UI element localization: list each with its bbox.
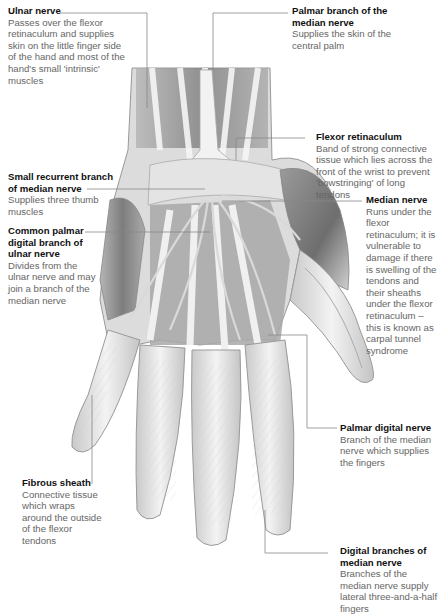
label-desc: Connective tissue which wraps around the…	[22, 489, 104, 547]
label-common-palmar-digital-ulnar: Common palmar digital branch of ulnar ne…	[8, 225, 100, 306]
middle-finger	[192, 350, 241, 546]
label-title: Palmar branch of the median nerve	[292, 5, 402, 28]
label-small-recurrent-branch: Small recurrent branch of median nerve S…	[8, 171, 120, 217]
fingers	[72, 330, 294, 546]
label-desc: Band of strong connective tissue which l…	[316, 143, 438, 201]
label-title: Common palmar digital branch of ulnar ne…	[8, 225, 100, 260]
label-title: Flexor retinaculum	[316, 131, 438, 143]
label-desc: Branches of the median nerve supply late…	[340, 568, 438, 614]
label-title: Fibrous sheath	[22, 477, 104, 489]
label-desc: Runs under the flexor retinaculum; it is…	[366, 206, 438, 357]
label-fibrous-sheath: Fibrous sheath Connective tissue which w…	[22, 477, 104, 547]
label-ulnar-nerve: Ulnar nerve Passes over the flexor retin…	[8, 5, 126, 86]
label-desc: Supplies the skin of the central palm	[292, 28, 402, 51]
label-title: Palmar digital nerve	[340, 422, 438, 434]
little-finger	[72, 330, 140, 452]
label-title: Digital branches of median nerve	[340, 545, 438, 568]
label-title: Small recurrent branch of median nerve	[8, 171, 120, 194]
label-desc: Passes over the flexor retinaculum and s…	[8, 17, 126, 87]
label-palmar-digital-nerve: Palmar digital nerve Branch of the media…	[340, 422, 438, 468]
label-desc: Supplies three thumb muscles	[8, 194, 120, 217]
label-title: Ulnar nerve	[8, 5, 126, 17]
label-desc: Divides from the ulnar nerve and may joi…	[8, 260, 100, 306]
label-median-nerve: Median nerve Runs under the flexor retin…	[366, 194, 438, 356]
label-desc: Branch of the median nerve which supplie…	[340, 434, 438, 469]
label-title: Median nerve	[366, 194, 438, 206]
ring-finger	[136, 345, 185, 519]
label-digital-branches-median: Digital branches of median nerve Branche…	[340, 545, 438, 615]
label-flexor-retinaculum: Flexor retinaculum Band of strong connec…	[316, 131, 438, 201]
label-palmar-branch-median: Palmar branch of the median nerve Suppli…	[292, 5, 402, 51]
index-finger	[245, 340, 294, 535]
